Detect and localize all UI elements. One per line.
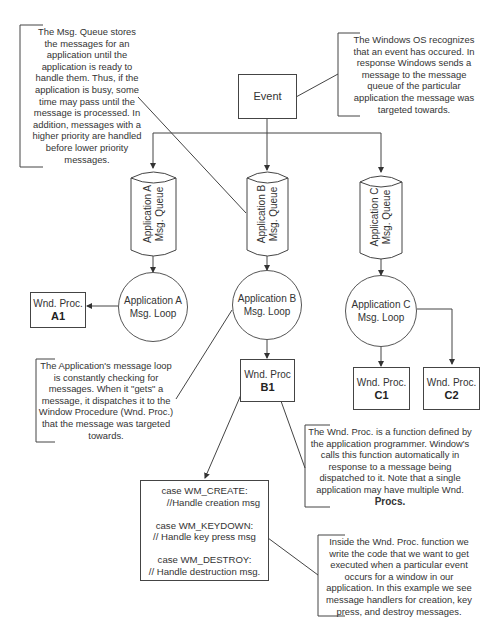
loop-c-line1: Application C bbox=[352, 298, 411, 311]
code-line-destroy: case WM_DESTROY: bbox=[141, 554, 268, 566]
proc-c2-label: Wnd. Proc. bbox=[427, 376, 476, 389]
wnd-proc-c2: Wnd. Proc. C2 bbox=[423, 367, 480, 410]
code-line-keydown-comment: // Handle key press msg bbox=[141, 531, 268, 543]
loop-a-line2: Msg. Loop bbox=[130, 307, 177, 320]
proc-b1-label: Wnd. Proc bbox=[244, 368, 291, 381]
wnd-proc-a1: Wnd. Proc. A1 bbox=[30, 292, 86, 328]
loop-c-line2: Msg. Loop bbox=[358, 311, 405, 324]
queue-a-line2: Msg. Queue bbox=[154, 187, 165, 241]
wnd-proc-note: The Wnd. Proc. is a function defined by … bbox=[306, 426, 474, 507]
windows-message-diagram: The Msg. Queue stores the messages for a… bbox=[0, 0, 488, 631]
windows-os-note-text: The Windows OS recognizes that an event … bbox=[354, 34, 475, 115]
proc-b1-id: B1 bbox=[260, 381, 274, 394]
wnd-proc-code-box: case WM_CREATE: //Handle creation msg ca… bbox=[140, 480, 269, 581]
queue-app-b: Application BMsg. Queue bbox=[246, 170, 289, 258]
queue-b-line1: Application B bbox=[256, 185, 267, 243]
queue-b-line2: Msg. Queue bbox=[268, 187, 279, 241]
code-line-keydown: case WM_KEYDOWN: bbox=[141, 520, 268, 532]
queue-app-c: Application CMsg. Queue bbox=[359, 173, 403, 261]
wnd-proc-b1: Wnd. Proc B1 bbox=[240, 359, 295, 402]
code-line-destroy-comment: // Handle destruction msg. bbox=[141, 566, 268, 578]
proc-a1-id: A1 bbox=[51, 310, 65, 323]
code-line-create: case WM_CREATE: bbox=[141, 485, 268, 497]
wnd-proc-note-text: The Wnd. Proc. is a function defined by … bbox=[308, 426, 472, 495]
proc-c1-label: Wnd. Proc. bbox=[357, 376, 406, 389]
inside-wnd-proc-note-text: Inside the Wnd. Proc. function we write … bbox=[326, 536, 472, 617]
loop-app-b: Application B Msg. Loop bbox=[232, 270, 302, 340]
loop-b-line1: Application B bbox=[238, 292, 296, 305]
code-line-create-comment: //Handle creation msg bbox=[141, 497, 268, 509]
proc-c2-id: C2 bbox=[444, 389, 458, 402]
queue-c-line1: Application C bbox=[369, 188, 380, 247]
proc-c1-id: C1 bbox=[374, 389, 388, 402]
event-box: Event bbox=[238, 74, 297, 119]
msg-loop-note-text: The Application's message loop is consta… bbox=[39, 360, 173, 441]
windows-os-note: The Windows OS recognizes that an event … bbox=[340, 34, 488, 115]
queue-a-line1: Application A bbox=[142, 185, 153, 243]
msg-queue-note-text: The Msg. Queue stores the messages for a… bbox=[33, 26, 142, 165]
loop-b-line2: Msg. Loop bbox=[244, 305, 291, 318]
wnd-proc-note-bold: Procs. bbox=[375, 496, 406, 507]
inside-wnd-proc-note: Inside the Wnd. Proc. function we write … bbox=[319, 536, 479, 617]
loop-app-a: Application A Msg. Loop bbox=[118, 272, 188, 342]
queue-c-line2: Msg. Queue bbox=[381, 190, 392, 244]
proc-a1-label: Wnd. Proc. bbox=[33, 297, 82, 310]
msg-loop-note: The Application's message loop is consta… bbox=[36, 360, 176, 441]
msg-queue-note: The Msg. Queue stores the messages for a… bbox=[22, 26, 152, 165]
loop-app-c: Application C Msg. Loop bbox=[345, 275, 417, 347]
wnd-proc-c1: Wnd. Proc. C1 bbox=[353, 367, 410, 410]
loop-a-line1: Application A bbox=[124, 294, 182, 307]
event-label: Event bbox=[253, 90, 281, 103]
queue-app-a: Application AMsg. Queue bbox=[130, 170, 177, 258]
